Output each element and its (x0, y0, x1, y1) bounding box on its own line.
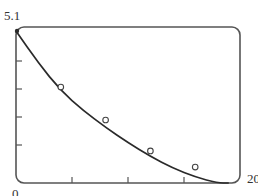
y-max-label: 5.1 (4, 9, 20, 22)
data-point-marker (103, 117, 109, 123)
start-point-marker (15, 29, 19, 33)
x-min-label: 0 (12, 187, 19, 196)
data-point-marker (148, 148, 154, 154)
data-points (58, 84, 198, 170)
y-axis-ticks (16, 61, 22, 145)
data-point-marker (192, 164, 198, 170)
x-axis-ticks (72, 177, 184, 183)
plot-frame (16, 27, 240, 183)
fitted-curve (16, 31, 229, 183)
chart-canvas (0, 0, 258, 196)
x-max-label: 20 (247, 172, 258, 185)
data-point-marker (58, 84, 64, 90)
